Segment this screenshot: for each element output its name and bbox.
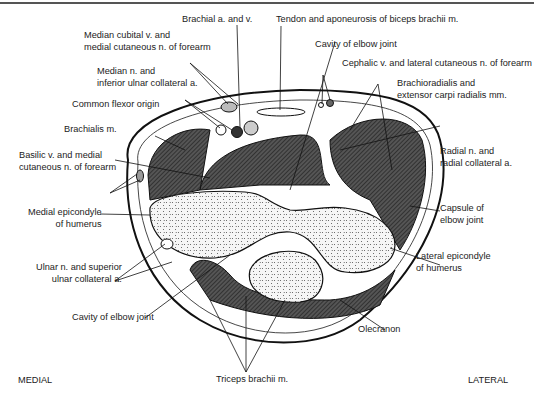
label-cephalic-vein: Cephalic v. and lateral cutaneous n. of …	[342, 58, 532, 70]
label-capsule-elbow-joint: Capsule of elbow joint	[440, 203, 484, 226]
label-lateral-epicondyle: Lateral epicondyle of humerus	[416, 251, 491, 274]
label-brachial-artery-vein: Brachial a. and v.	[182, 14, 252, 26]
ulnar-nerve	[161, 239, 173, 249]
label-median-nerve: Median n. and inferior ulnar collateral …	[97, 66, 198, 89]
label-brachialis: Brachialis m.	[64, 124, 117, 136]
olecranon-bone	[249, 251, 322, 302]
cephalic-vein	[327, 100, 334, 107]
label-cavity-elbow-joint-top: Cavity of elbow joint	[315, 39, 397, 51]
label-radial-nerve: Radial n. and radial collateral a.	[440, 146, 512, 169]
label-medial-epicondyle: Medial epicondyle of humerus	[28, 207, 102, 230]
label-ulnar-nerve: Ulnar n. and superior ulnar collateral a…	[36, 262, 122, 285]
label-biceps-tendon: Tendon and aponeurosis of biceps brachii…	[276, 14, 458, 26]
label-median-cubital-vein: Median cubital v. and medial cutaneous n…	[84, 30, 211, 53]
biceps-tendon	[257, 108, 305, 116]
brachial-vein	[244, 121, 258, 135]
label-triceps-brachii: Triceps brachii m.	[216, 374, 288, 386]
orientation-lateral: LATERAL	[468, 375, 508, 387]
label-basilic-vein: Basilic v. and medial cutaneous n. of fo…	[19, 150, 116, 173]
median-cubital-vein	[221, 102, 237, 112]
brachial-artery	[232, 127, 243, 138]
label-olecranon: Olecranon	[358, 324, 400, 336]
label-brachioradialis: Brachioradialis and extensor carpi radia…	[397, 78, 507, 101]
label-common-flexor-origin: Common flexor origin	[72, 99, 159, 111]
label-cavity-elbow-joint-bottom: Cavity of elbow joint	[72, 312, 154, 324]
orientation-medial: MEDIAL	[18, 375, 52, 387]
